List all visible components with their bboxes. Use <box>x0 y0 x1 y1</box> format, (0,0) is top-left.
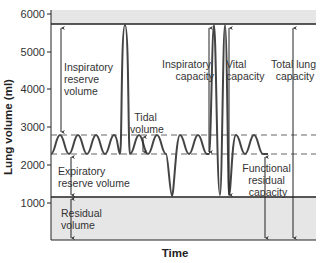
frc-label: Functional residual capacity <box>242 162 293 198</box>
ic-label: Inspiratory capacity <box>162 58 215 82</box>
vc-label: Vital capacity <box>226 58 265 82</box>
tick-6000: 6000 <box>21 8 45 20</box>
tlc-label: Total lung capacity <box>271 58 319 82</box>
tick-5000: 5000 <box>21 46 45 58</box>
erv-label: Expiratory reserve volume <box>58 165 130 189</box>
tick-4000: 4000 <box>21 83 45 95</box>
above-tlc-shade <box>51 10 316 24</box>
tick-3000: 3000 <box>21 121 45 133</box>
irv-label: Inspiratory reserve volume <box>64 61 116 97</box>
x-axis-title: Time <box>162 247 189 259</box>
tidal-label: Tidal volume <box>130 111 164 135</box>
y-axis-title: Lung volume (ml) <box>2 79 14 175</box>
y-tick-labels: 6000 5000 4000 3000 2000 1000 <box>21 8 45 209</box>
lung-volume-diagram: 6000 5000 4000 3000 2000 1000 Lung volum… <box>0 0 322 263</box>
y-ticks <box>47 14 51 203</box>
tick-2000: 2000 <box>21 159 45 171</box>
tick-1000: 1000 <box>21 197 45 209</box>
